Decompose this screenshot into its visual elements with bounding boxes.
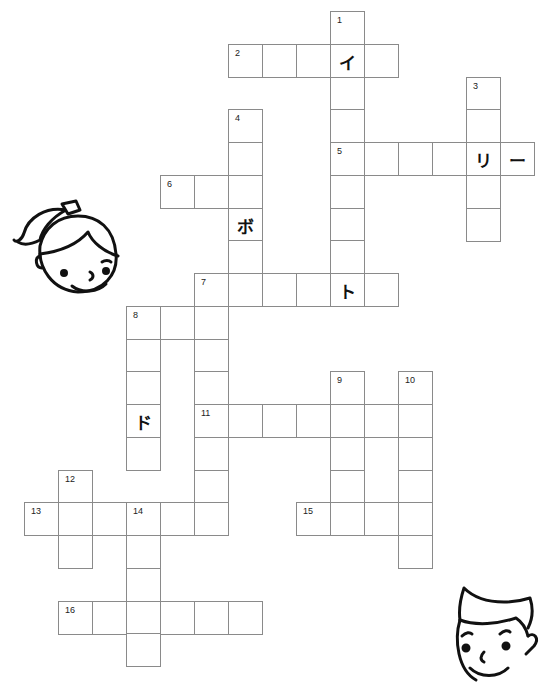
crossword-cell[interactable]: 6	[160, 175, 195, 209]
crossword-cell[interactable]	[160, 306, 195, 340]
crossword-cell[interactable]	[194, 502, 229, 536]
crossword-cell[interactable]: 5	[330, 142, 365, 176]
crossword-cell[interactable]: イ	[330, 44, 365, 78]
crossword-cell[interactable]	[398, 437, 433, 471]
clue-number: 15	[303, 507, 313, 516]
crossword-cell[interactable]: 16	[58, 601, 93, 635]
crossword-cell[interactable]	[194, 175, 229, 209]
crossword-cell[interactable]	[194, 601, 229, 635]
crossword-cell[interactable]: ー	[500, 142, 535, 176]
crossword-cell[interactable]	[330, 77, 365, 111]
crossword-cell[interactable]	[92, 502, 127, 536]
crossword-cell[interactable]	[126, 339, 161, 373]
crossword-cell[interactable]: 1	[330, 11, 365, 45]
crossword-cell[interactable]	[194, 371, 229, 405]
given-letter: イ	[331, 45, 364, 77]
crossword-cell[interactable]	[228, 142, 263, 176]
crossword-cell[interactable]	[296, 44, 331, 78]
crossword-cell[interactable]	[364, 273, 399, 307]
clue-number: 9	[337, 376, 342, 385]
crossword-cell[interactable]	[126, 633, 161, 667]
crossword-cell[interactable]	[364, 44, 399, 78]
crossword-cell[interactable]	[432, 142, 467, 176]
girl-face-icon	[6, 188, 124, 298]
crossword-cell[interactable]: 2	[228, 44, 263, 78]
clue-number: 14	[133, 507, 143, 516]
crossword-cell[interactable]	[262, 273, 297, 307]
given-letter: リ	[467, 143, 500, 175]
crossword-cell[interactable]	[126, 568, 161, 602]
crossword-cell[interactable]	[262, 404, 297, 438]
crossword-cell[interactable]: 11	[194, 404, 229, 438]
crossword-cell[interactable]: 10	[398, 371, 433, 405]
crossword-cell[interactable]: リ	[466, 142, 501, 176]
crossword-cell[interactable]: 9	[330, 371, 365, 405]
crossword-cell[interactable]	[330, 437, 365, 471]
crossword-cell[interactable]	[330, 175, 365, 209]
clue-number: 12	[65, 475, 75, 484]
crossword-cell[interactable]	[194, 306, 229, 340]
crossword-cell[interactable]	[160, 502, 195, 536]
crossword-cell[interactable]: 4	[228, 109, 263, 143]
crossword-cell[interactable]	[398, 470, 433, 504]
crossword-cell[interactable]: ド	[126, 404, 161, 438]
crossword-cell[interactable]	[398, 502, 433, 536]
crossword-cell[interactable]	[330, 404, 365, 438]
crossword-cell[interactable]	[228, 273, 263, 307]
crossword-cell[interactable]	[466, 208, 501, 242]
crossword-cell[interactable]	[330, 208, 365, 242]
crossword-cell[interactable]: 15	[296, 502, 331, 536]
crossword-cell[interactable]	[126, 437, 161, 471]
crossword-cell[interactable]: 3	[466, 77, 501, 111]
crossword-cell[interactable]: 13	[24, 502, 59, 536]
crossword-cell[interactable]: 12	[58, 470, 93, 504]
crossword-cell[interactable]	[466, 175, 501, 209]
crossword-cell[interactable]	[126, 535, 161, 569]
crossword-cell[interactable]	[398, 404, 433, 438]
clue-number: 8	[133, 311, 138, 320]
crossword-cell[interactable]	[58, 502, 93, 536]
given-letter: ー	[501, 143, 534, 175]
crossword-cell[interactable]	[364, 502, 399, 536]
given-letter: ボ	[229, 209, 262, 241]
crossword-cell[interactable]	[364, 404, 399, 438]
crossword-cell[interactable]	[126, 371, 161, 405]
clue-number: 2	[235, 49, 240, 58]
crossword-cell[interactable]	[330, 470, 365, 504]
clue-number: 16	[65, 606, 75, 615]
crossword-cell[interactable]	[330, 502, 365, 536]
crossword-cell[interactable]: 14	[126, 502, 161, 536]
clue-number: 11	[201, 409, 210, 418]
crossword-cell[interactable]	[296, 273, 331, 307]
crossword-cell[interactable]	[398, 535, 433, 569]
crossword-cell[interactable]	[330, 240, 365, 274]
crossword-cell[interactable]	[126, 601, 161, 635]
crossword-cell[interactable]	[194, 339, 229, 373]
crossword-cell[interactable]	[228, 175, 263, 209]
crossword-cell[interactable]	[58, 535, 93, 569]
crossword-cell[interactable]: 8	[126, 306, 161, 340]
crossword-cell[interactable]	[160, 601, 195, 635]
crossword-cell[interactable]	[92, 601, 127, 635]
crossword-cell[interactable]	[228, 601, 263, 635]
clue-number: 1	[337, 16, 342, 25]
crossword-cell[interactable]	[398, 142, 433, 176]
given-letter: ド	[127, 405, 160, 437]
clue-number: 7	[201, 278, 206, 287]
crossword-cell[interactable]	[194, 437, 229, 471]
crossword-cell[interactable]: ト	[330, 273, 365, 307]
crossword-cell[interactable]: 7	[194, 273, 229, 307]
crossword-cell[interactable]	[330, 109, 365, 143]
crossword-cell[interactable]: ボ	[228, 208, 263, 242]
crossword-cell[interactable]	[228, 404, 263, 438]
crossword-cell[interactable]	[296, 404, 331, 438]
clue-number: 4	[235, 114, 240, 123]
crossword-cell[interactable]	[262, 44, 297, 78]
crossword-cell[interactable]	[194, 470, 229, 504]
boy-face-icon	[436, 580, 551, 685]
crossword-cell[interactable]	[228, 240, 263, 274]
clue-number: 5	[337, 147, 342, 156]
given-letter: ト	[331, 274, 364, 306]
crossword-cell[interactable]	[466, 109, 501, 143]
crossword-cell[interactable]	[364, 142, 399, 176]
